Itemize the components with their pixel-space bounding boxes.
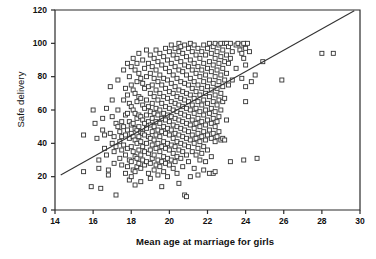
data-point: [158, 135, 162, 139]
x-tick-label: 28: [309, 216, 335, 226]
data-point: [177, 181, 181, 185]
data-point: [200, 86, 204, 90]
data-point: [133, 170, 137, 174]
data-point: [207, 95, 211, 99]
data-point: [228, 56, 232, 60]
data-point: [145, 141, 149, 145]
data-point: [125, 93, 129, 97]
data-point: [200, 103, 204, 107]
data-point: [152, 153, 156, 157]
data-point: [101, 116, 105, 120]
data-point: [198, 140, 202, 144]
data-point: [116, 78, 120, 82]
data-point: [249, 80, 253, 84]
x-tick-label: 18: [118, 216, 144, 226]
data-point: [331, 51, 335, 55]
data-point: [211, 81, 215, 85]
data-point: [230, 50, 234, 54]
data-point: [185, 153, 189, 157]
data-point: [196, 146, 200, 150]
data-point: [200, 151, 204, 155]
data-point: [171, 166, 175, 170]
data-point: [173, 160, 177, 164]
data-point: [211, 63, 215, 67]
data-point: [148, 71, 152, 75]
data-point: [206, 148, 210, 152]
data-point: [112, 161, 116, 165]
data-point: [91, 108, 95, 112]
data-point: [150, 83, 154, 87]
data-point: [141, 81, 145, 85]
data-point: [246, 41, 250, 45]
data-point: [129, 83, 133, 87]
data-point: [219, 55, 223, 59]
data-point: [247, 50, 251, 54]
x-tick-label: 30: [347, 216, 373, 226]
data-point: [198, 158, 202, 162]
data-point: [97, 166, 101, 170]
data-point: [112, 150, 116, 154]
data-point: [213, 125, 217, 129]
data-point: [139, 140, 143, 144]
data-point: [188, 175, 192, 179]
data-point: [145, 98, 149, 102]
data-point: [215, 68, 219, 72]
data-point: [228, 41, 232, 45]
data-point: [160, 185, 164, 189]
data-point: [124, 86, 128, 90]
data-point: [320, 51, 324, 55]
data-point: [215, 120, 219, 124]
data-point: [209, 70, 213, 74]
data-point: [213, 110, 217, 114]
data-point: [223, 96, 227, 100]
data-point: [125, 111, 129, 115]
data-point: [213, 75, 217, 79]
data-point: [228, 160, 232, 164]
y-tick-label: 20: [13, 171, 47, 181]
data-point: [137, 71, 141, 75]
data-point: [148, 148, 152, 152]
data-point: [213, 170, 217, 174]
y-tick-label: 40: [13, 138, 47, 148]
data-point: [226, 83, 230, 87]
data-point: [148, 161, 152, 165]
data-point: [104, 153, 108, 157]
data-point: [156, 173, 160, 177]
data-point: [234, 66, 238, 70]
y-tick-label: 120: [13, 5, 47, 15]
data-point: [129, 160, 133, 164]
data-point: [207, 111, 211, 115]
data-point: [198, 75, 202, 79]
data-point: [200, 68, 204, 72]
x-tick-label: 14: [42, 216, 68, 226]
data-point: [175, 171, 179, 175]
data-point: [122, 98, 126, 102]
data-point: [213, 93, 217, 97]
data-point: [204, 138, 208, 142]
data-point: [280, 78, 284, 82]
data-point: [146, 171, 150, 175]
data-point: [226, 61, 230, 65]
data-point: [148, 176, 152, 180]
data-point: [240, 51, 244, 55]
y-tick-label: 100: [13, 38, 47, 48]
data-point: [106, 168, 110, 172]
data-point: [244, 100, 248, 104]
data-point: [127, 75, 131, 79]
data-point: [209, 155, 213, 159]
data-point: [217, 61, 221, 65]
data-point: [198, 56, 202, 60]
data-point: [124, 153, 128, 157]
data-point: [122, 68, 126, 72]
data-point: [139, 76, 143, 80]
data-point: [204, 73, 208, 77]
data-point: [110, 98, 114, 102]
data-point: [139, 180, 143, 184]
data-point: [110, 115, 114, 119]
data-point: [255, 156, 259, 160]
scatter-plot-figure: Safe delivery Mean age at marriage for g…: [0, 0, 376, 259]
data-point: [185, 195, 189, 199]
data-point: [162, 170, 166, 174]
data-point: [133, 183, 137, 187]
data-point: [206, 46, 210, 50]
